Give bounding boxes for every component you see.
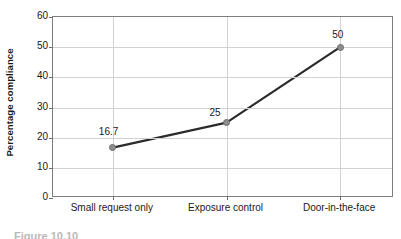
figure-line-chart: Percentage compliance 0102030405060 16.7… bbox=[0, 0, 401, 239]
y-axis-title: Percentage compliance bbox=[0, 0, 18, 205]
y-tick-mark bbox=[49, 168, 53, 169]
x-tick-mark bbox=[113, 196, 114, 200]
y-axis-tick-labels: 0102030405060 bbox=[18, 0, 48, 239]
y-tick-label: 40 bbox=[22, 71, 48, 81]
y-tick-label: 0 bbox=[22, 192, 48, 202]
y-tick-mark bbox=[49, 47, 53, 48]
y-tick-label: 60 bbox=[22, 11, 48, 21]
x-tick-mark bbox=[340, 196, 341, 200]
y-tick-mark bbox=[49, 138, 53, 139]
y-tick-label: 30 bbox=[22, 102, 48, 112]
x-tick-label: Door-in-the-face bbox=[303, 202, 375, 213]
y-tick-mark bbox=[49, 198, 53, 199]
figure-caption-clipped: Figure 10.10 bbox=[14, 231, 214, 239]
y-tick-mark bbox=[49, 108, 53, 109]
x-tick-label: Small request only bbox=[71, 202, 153, 213]
plot-area: 16.72550 bbox=[52, 16, 393, 197]
y-tick-label: 10 bbox=[22, 162, 48, 172]
gridline-vertical-category bbox=[227, 17, 228, 196]
data-point-label: 16.7 bbox=[99, 127, 118, 137]
data-point-marker bbox=[337, 44, 344, 51]
data-point-label: 25 bbox=[210, 108, 221, 118]
y-tick-mark bbox=[49, 17, 53, 18]
y-tick-label: 50 bbox=[22, 41, 48, 51]
data-point-label: 50 bbox=[332, 30, 343, 40]
y-tick-mark bbox=[49, 77, 53, 78]
gridline-vertical-category bbox=[113, 17, 114, 196]
x-tick-mark bbox=[227, 196, 228, 200]
y-axis-title-text: Percentage compliance bbox=[4, 48, 15, 156]
y-tick-label: 20 bbox=[22, 132, 48, 142]
x-tick-label: Exposure control bbox=[188, 202, 263, 213]
